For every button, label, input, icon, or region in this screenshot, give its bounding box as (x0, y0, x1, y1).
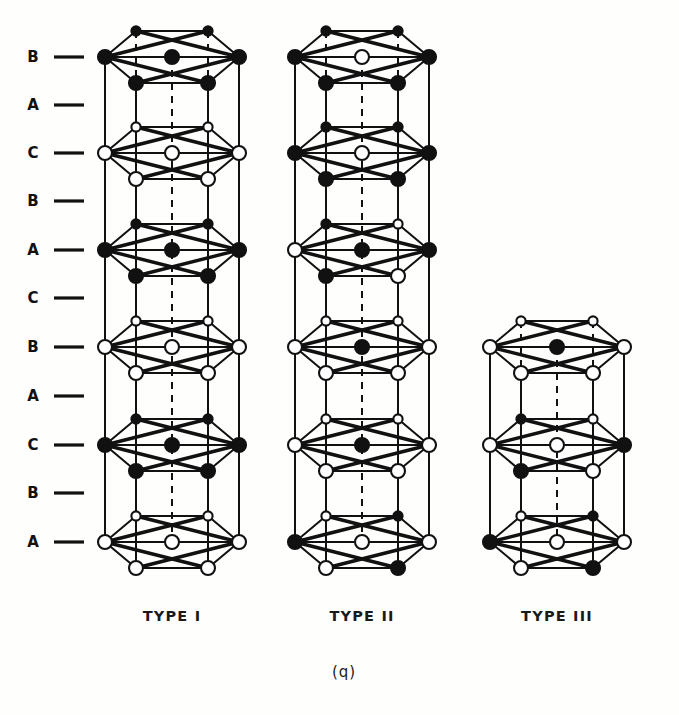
atom-filled-corner-5 (129, 464, 143, 478)
atom-open-corner-1 (516, 316, 525, 325)
atom-open-corner-3 (422, 438, 436, 452)
atom-open-corner-4 (391, 366, 405, 380)
atom-open-center (550, 438, 564, 452)
layer-label-c-5: C (27, 289, 38, 307)
atom-open-corner-3 (232, 146, 246, 160)
atom-filled-corner-0 (288, 50, 302, 64)
atom-filled-center (550, 340, 564, 354)
atom-filled-corner-3 (232, 50, 246, 64)
atom-filled-center (165, 438, 179, 452)
atom-filled-corner-5 (319, 269, 333, 283)
layer-label-b-3: B (27, 192, 38, 210)
atom-open-corner-2 (203, 316, 212, 325)
layer-label-a-4: A (27, 241, 39, 259)
atom-filled-center (355, 340, 369, 354)
atom-filled-corner-4 (391, 76, 405, 90)
atom-filled-corner-5 (319, 76, 333, 90)
atom-open-corner-4 (201, 561, 215, 575)
layer-label-b-6: B (27, 338, 38, 356)
atom-open-corner-5 (514, 366, 528, 380)
atom-open-corner-3 (232, 340, 246, 354)
atom-open-corner-4 (391, 464, 405, 478)
atom-filled-corner-2 (588, 511, 597, 520)
atom-filled-center (165, 243, 179, 257)
atom-open-corner-2 (393, 219, 402, 228)
atom-open-corner-5 (129, 366, 143, 380)
layer-label-a-7: A (27, 387, 39, 405)
atom-open-corner-0 (98, 535, 112, 549)
atom-filled-corner-3 (422, 243, 436, 257)
atom-filled-corner-5 (514, 464, 528, 478)
atom-filled-corner-2 (393, 511, 402, 520)
atom-open-corner-4 (201, 366, 215, 380)
atom-open-corner-2 (588, 316, 597, 325)
atom-filled-corner-0 (98, 438, 112, 452)
atom-open-corner-2 (393, 316, 402, 325)
atom-filled-corner-0 (483, 535, 497, 549)
atom-open-corner-0 (98, 340, 112, 354)
atom-open-corner-3 (617, 340, 631, 354)
atom-filled-corner-3 (422, 146, 436, 160)
atom-filled-corner-2 (393, 26, 402, 35)
atom-filled-corner-1 (321, 219, 330, 228)
atom-open-corner-2 (203, 511, 212, 520)
atom-open-corner-0 (288, 340, 302, 354)
atom-filled-corner-2 (203, 414, 212, 423)
atom-filled-corner-2 (393, 122, 402, 131)
atom-open-center (550, 535, 564, 549)
atom-filled-corner-4 (391, 172, 405, 186)
atom-filled-corner-1 (321, 122, 330, 131)
atom-open-corner-5 (129, 561, 143, 575)
hcp-stacking-figure: BACBACBACBA TYPE ITYPE IITYPE III (q) (0, 0, 679, 715)
atom-open-corner-1 (516, 511, 525, 520)
atom-filled-center (165, 50, 179, 64)
atom-filled-corner-4 (391, 561, 405, 575)
atom-filled-corner-4 (586, 561, 600, 575)
atom-open-corner-5 (319, 464, 333, 478)
atom-open-corner-2 (588, 414, 597, 423)
atom-filled-corner-1 (516, 414, 525, 423)
atom-filled-corner-0 (288, 146, 302, 160)
atom-filled-corner-3 (232, 243, 246, 257)
atom-filled-corner-5 (319, 172, 333, 186)
column-label-type-2: TYPE II (329, 608, 394, 624)
atom-filled-corner-3 (617, 438, 631, 452)
atom-open-corner-1 (131, 316, 140, 325)
atom-open-corner-1 (321, 511, 330, 520)
atom-open-corner-5 (319, 366, 333, 380)
atom-filled-corner-1 (321, 26, 330, 35)
layer-label-c-2: C (27, 144, 38, 162)
layer-label-c-8: C (27, 436, 38, 454)
atom-open-corner-3 (422, 340, 436, 354)
atom-open-corner-3 (232, 535, 246, 549)
atom-open-corner-2 (393, 414, 402, 423)
atom-open-corner-0 (288, 243, 302, 257)
atom-filled-corner-4 (201, 269, 215, 283)
atom-open-corner-3 (617, 535, 631, 549)
atom-filled-corner-3 (422, 50, 436, 64)
atom-open-corner-1 (321, 414, 330, 423)
atom-filled-corner-3 (232, 438, 246, 452)
column-label-type-1: TYPE I (143, 608, 202, 624)
atom-filled-corner-0 (98, 243, 112, 257)
atom-filled-corner-5 (129, 76, 143, 90)
atom-filled-corner-2 (203, 26, 212, 35)
atom-filled-corner-0 (288, 535, 302, 549)
layer-label-a-1: A (27, 96, 39, 114)
atom-open-corner-5 (514, 561, 528, 575)
atom-filled-corner-4 (201, 76, 215, 90)
atom-open-corner-5 (319, 561, 333, 575)
layer-label-a-10: A (27, 533, 39, 551)
atom-open-corner-0 (288, 438, 302, 452)
atom-open-corner-4 (201, 172, 215, 186)
layer-label-b-0: B (27, 48, 38, 66)
atom-open-corner-4 (391, 269, 405, 283)
atom-open-corner-0 (483, 438, 497, 452)
atom-filled-corner-1 (131, 414, 140, 423)
atom-open-corner-0 (98, 146, 112, 160)
atom-open-corner-3 (422, 535, 436, 549)
atom-open-corner-0 (483, 340, 497, 354)
atom-open-corner-2 (203, 122, 212, 131)
atom-filled-center (355, 243, 369, 257)
layer-label-b-9: B (27, 484, 38, 502)
